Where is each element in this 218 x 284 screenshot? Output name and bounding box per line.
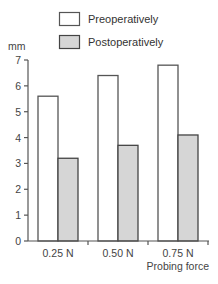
y-tick-label: 3	[15, 157, 21, 169]
x-tick-label: 0.25 N	[43, 247, 74, 259]
bars	[38, 65, 198, 241]
bar-postoperatively-0	[58, 158, 78, 241]
bar-chart: PreoperativelyPostoperatively 01234567 0…	[0, 0, 218, 284]
bar-postoperatively-1	[118, 145, 138, 241]
legend-swatch-postoperatively	[60, 36, 80, 49]
y-tick-label: 4	[15, 132, 21, 144]
bar-preoperatively-1	[98, 76, 118, 241]
y-tick-label: 0	[15, 235, 21, 247]
y-axis-unit-label: mm	[8, 40, 26, 52]
y-tick-label: 7	[15, 54, 21, 66]
y-tick-label: 5	[15, 106, 21, 118]
x-axis: 0.25 N0.50 N0.75 N	[28, 241, 209, 259]
bar-preoperatively-2	[158, 65, 178, 241]
x-tick-label: 0.50 N	[103, 247, 134, 259]
legend: PreoperativelyPostoperatively	[60, 13, 164, 49]
y-axis: 01234567	[15, 54, 28, 247]
y-tick-label: 1	[15, 209, 21, 221]
legend-swatch-preoperatively	[60, 13, 80, 26]
bar-postoperatively-2	[178, 135, 198, 241]
y-tick-label: 2	[15, 183, 21, 195]
x-axis-title: Probing force	[147, 260, 210, 272]
y-tick-label: 6	[15, 80, 21, 92]
bar-preoperatively-0	[38, 96, 58, 241]
legend-label: Postoperatively	[88, 36, 164, 48]
x-tick-label: 0.75 N	[163, 247, 194, 259]
legend-label: Preoperatively	[88, 13, 159, 25]
